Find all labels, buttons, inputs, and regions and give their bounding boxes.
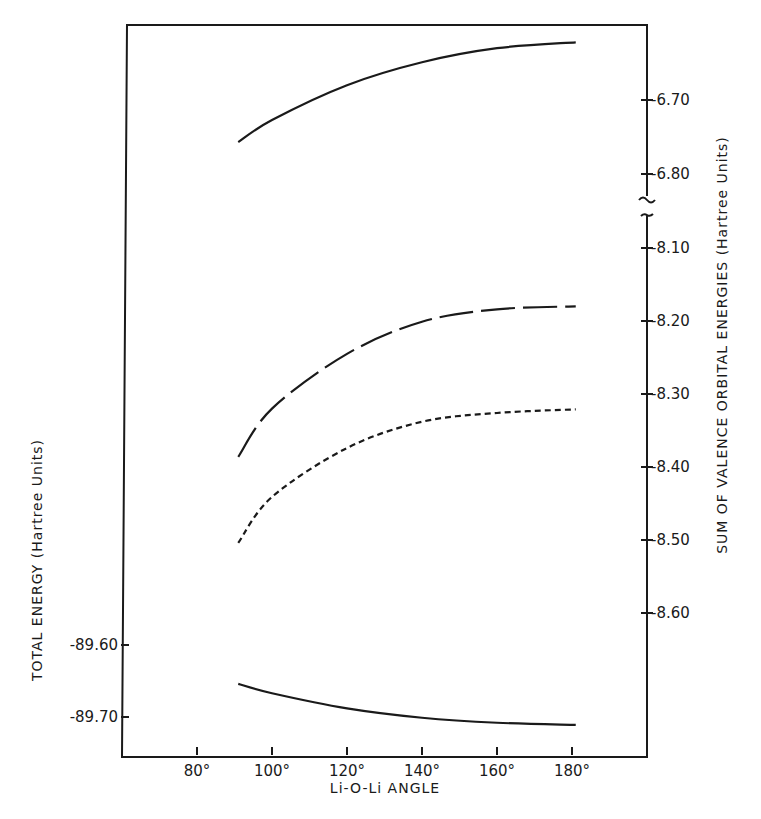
- left-y-axis-title: TOTAL ENERGY (Hartree Units): [29, 439, 45, 682]
- right-y-tick-label: -8.30: [651, 385, 690, 403]
- right-y-tick-label: -6.70: [651, 91, 690, 109]
- right-y-axis-ticks: -6.70-6.80-8.10-8.20-8.30-8.40-8.50-8.60: [641, 91, 690, 622]
- plot-frame: [122, 25, 647, 757]
- left-y-tick-label: -89.60: [70, 636, 118, 654]
- x-tick-label: 120°: [329, 762, 365, 780]
- axis-break-marker-bottom: [641, 214, 653, 220]
- right-y-tick-label: -8.20: [651, 312, 690, 330]
- energy-vs-angle-chart: 80°100°120°140°160°180° -89.60-89.70 -6.…: [0, 0, 761, 819]
- curve-solid: [238, 42, 576, 142]
- right-y-tick-label: -8.50: [651, 531, 690, 549]
- x-axis-ticks: 80°100°120°140°160°180°: [184, 747, 590, 780]
- curve-solid: [238, 684, 576, 725]
- curve-short-dash: [238, 409, 576, 543]
- left-y-tick-label: -89.70: [70, 708, 118, 726]
- right-y-tick-label: -8.40: [651, 458, 690, 476]
- right-y-tick-label: -6.80: [651, 165, 690, 183]
- right-y-axis-title: SUM OF VALENCE ORBITAL ENERGIES (Hartree…: [714, 136, 730, 554]
- left-y-axis-ticks: -89.60-89.70: [70, 636, 129, 726]
- right-y-tick-label: -8.60: [651, 604, 690, 622]
- curve-long-dash: [238, 306, 576, 456]
- x-axis-title: Li-O-Li ANGLE: [330, 780, 440, 796]
- right-y-tick-label: -8.10: [651, 239, 690, 257]
- x-tick-label: 160°: [479, 762, 515, 780]
- data-curves: [238, 42, 576, 725]
- x-tick-label: 140°: [404, 762, 440, 780]
- x-tick-label: 100°: [254, 762, 290, 780]
- x-tick-label: 80°: [184, 762, 211, 780]
- x-tick-label: 180°: [554, 762, 590, 780]
